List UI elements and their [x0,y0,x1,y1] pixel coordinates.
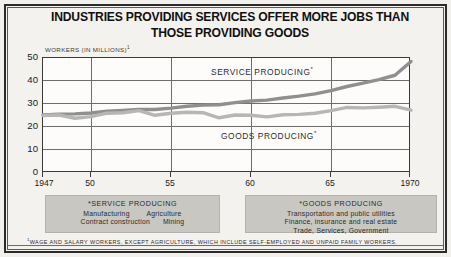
chart-title: INDUSTRIES PROVIDING SERVICES OFFER MORE… [46,9,414,40]
y-tick-30: 30 [14,97,38,108]
x-tickmark-1947 [42,172,43,177]
x-tick-1947: 1947 [28,178,60,188]
legend-box-service-producing: *SERVICE PRODUCING Manufacturing Agricul… [45,195,220,233]
series-annotation-goods-marker: * [314,130,317,136]
x-tickmark-1955 [170,172,171,177]
y-tick-50: 50 [14,51,38,62]
x-tick-1965: 65 [318,178,342,188]
x-tick-1955: 55 [158,178,182,188]
series-annotation-goods-producing: GOODS PRODUCING* [221,130,317,141]
plot-area: SERVICE PRODUCING* GOODS PRODUCING* [42,57,410,172]
legend-left-line-2: Contract construction Mining [46,218,219,226]
x-tick-1950: 50 [78,178,102,188]
legend-right-line-1: Transportation and public utilities [246,210,436,218]
x-tick-1960: 60 [238,178,262,188]
y-axis-label-text: WORKERS (IN MILLIONS) [45,46,127,53]
y-tick-0: 0 [14,166,38,177]
y-axis-label: WORKERS (IN MILLIONS)1 [45,45,130,53]
legend-right-line-2: Finance, insurance and real estate [246,218,436,226]
series-annotation-goods-text: GOODS PRODUCING [221,131,314,141]
x-tick-1970: 1970 [394,178,426,188]
legend-box-goods-producing: *GOODS PRODUCING Transportation and publ… [245,195,437,233]
x-tickmark-1970 [409,172,410,177]
series-annotation-service-producing: SERVICE PRODUCING* [211,66,313,77]
x-tickmark-1950 [90,172,91,177]
series-annotation-service-text: SERVICE PRODUCING [211,67,310,77]
footnote-text: WAGE AND SALARY WORKERS, EXCEPT AGRICULT… [30,239,397,245]
chart-footnote: 1WAGE AND SALARY WORKERS, EXCEPT AGRICUL… [27,237,427,245]
y-tick-10: 10 [14,143,38,154]
legend-right-line-3: Trade, Services, Government [246,227,436,235]
chart-page: INDUSTRIES PROVIDING SERVICES OFFER MORE… [0,0,451,257]
x-tickmark-1960 [250,172,251,177]
series-annotation-service-marker: * [310,66,313,72]
legend-left-line-1: Manufacturing Agriculture [46,210,219,218]
x-tickmark-1965 [330,172,331,177]
footnote-rule [8,245,443,246]
legend-right-heading: *GOODS PRODUCING [246,199,436,208]
y-tick-20: 20 [14,120,38,131]
y-axis-label-footnote-marker: 1 [127,45,130,50]
legend-left-heading: *SERVICE PRODUCING [46,199,219,208]
y-tick-40: 40 [14,74,38,85]
